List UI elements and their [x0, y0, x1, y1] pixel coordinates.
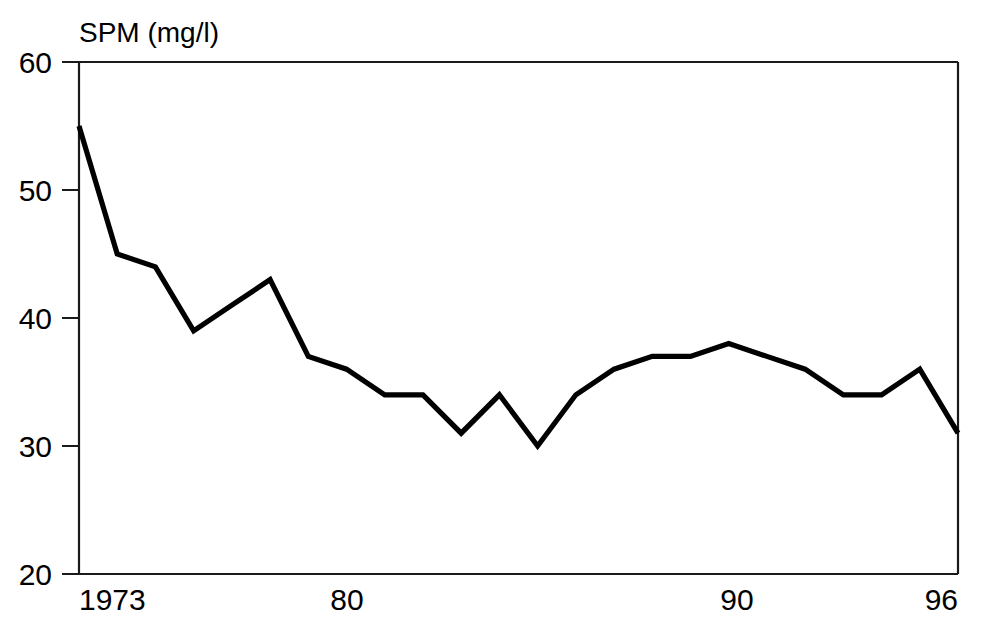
spm-line-chart: 60 50 40 30 20 1973 80 90 96 SPM (mg/l) — [0, 0, 985, 631]
y-axis-label-20: 20 — [19, 558, 52, 591]
y-axis-label-40: 40 — [19, 302, 52, 335]
y-axis-label-30: 30 — [19, 430, 52, 463]
x-axis-label-80: 80 — [330, 583, 363, 616]
chart-title: SPM (mg/l) — [79, 17, 219, 48]
x-axis-label-1973: 1973 — [79, 583, 146, 616]
chart-figure: 60 50 40 30 20 1973 80 90 96 SPM (mg/l) — [0, 0, 985, 631]
x-axis-label-96: 96 — [925, 583, 958, 616]
chart-background — [0, 0, 985, 631]
y-axis-label-60: 60 — [19, 46, 52, 79]
x-axis-label-90: 90 — [720, 583, 753, 616]
y-axis-label-50: 50 — [19, 174, 52, 207]
